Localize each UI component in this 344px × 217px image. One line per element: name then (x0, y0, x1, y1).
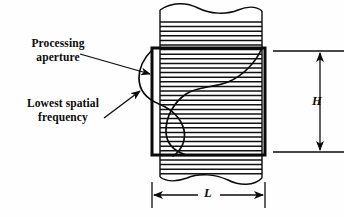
label-lowest-spatial-frequency: Lowest spatial frequency (14, 97, 112, 124)
dimension-label-h: H (312, 94, 322, 109)
figure-canvas: Processing aperture Lowest spatial frequ… (0, 0, 344, 217)
dimension-h (273, 51, 344, 152)
label-processing-aperture: Processing aperture (12, 37, 104, 64)
dimension-label-l: L (204, 186, 212, 201)
signal-strip (158, 4, 264, 185)
